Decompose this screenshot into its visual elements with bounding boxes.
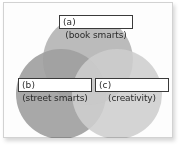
venn-label-group-b: (b) (street smarts)	[18, 78, 92, 104]
venn-tag-c[interactable]: (c)	[95, 78, 169, 92]
venn-tag-b[interactable]: (b)	[18, 78, 92, 92]
venn-tag-a[interactable]: (a)	[59, 15, 133, 29]
venn-label-group-a: (a) (book smarts)	[59, 15, 133, 41]
venn-diagram-figure: (a) (book smarts) (b) (street smarts) (c…	[0, 0, 180, 145]
venn-label-group-c: (c) (creativity)	[95, 78, 169, 104]
venn-sublabel-a: (book smarts)	[59, 30, 133, 41]
venn-sublabel-b: (street smarts)	[18, 93, 92, 104]
venn-stage: (a) (book smarts) (b) (street smarts) (c…	[3, 2, 173, 138]
venn-sublabel-c: (creativity)	[95, 93, 169, 104]
